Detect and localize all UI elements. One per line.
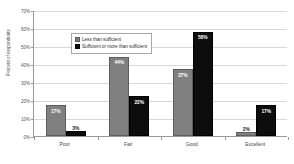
legend-swatch-icon bbox=[75, 37, 80, 42]
bar[interactable]: 37% bbox=[173, 69, 193, 136]
y-axis-tick-label: 70% bbox=[21, 9, 30, 14]
bar-group: 37%58% bbox=[173, 11, 213, 136]
bar-value-label: 2% bbox=[243, 127, 250, 132]
bar[interactable]: 44% bbox=[109, 57, 129, 136]
bar-group: 17%3% bbox=[46, 11, 86, 136]
y-axis-tick-label: 10% bbox=[21, 117, 30, 122]
bar-value-label: 17% bbox=[51, 109, 61, 114]
legend-item-less-than-sufficient: Less than sufficient bbox=[75, 36, 147, 43]
plot-area: 17%3%44%22%37%58%2%17% Less than suffici… bbox=[33, 11, 287, 137]
y-axis-tick-mark bbox=[31, 83, 34, 84]
bar-value-label: 17% bbox=[262, 109, 272, 114]
y-axis-tick-label: 20% bbox=[21, 99, 30, 104]
y-axis-title: Percent of respondents bbox=[6, 17, 11, 89]
y-axis-tick-label: 0% bbox=[24, 135, 30, 140]
bar-value-label: 58% bbox=[198, 35, 208, 40]
chart-screenshot: Percent of respondents 0%10%20%30%40%50%… bbox=[0, 0, 294, 164]
legend-item-sufficient-or-more: Sufficient or more than sufficient bbox=[75, 43, 147, 50]
legend-label: Sufficient or more than sufficient bbox=[82, 44, 147, 49]
y-axis-tick-mark bbox=[31, 29, 34, 30]
bar[interactable]: 3% bbox=[66, 131, 86, 136]
x-axis-tick-label: Fair bbox=[124, 141, 132, 147]
x-axis-tick-mark bbox=[34, 137, 35, 140]
x-axis-tick-mark bbox=[98, 137, 99, 140]
bar[interactable]: 22% bbox=[129, 96, 149, 136]
bar[interactable]: 2% bbox=[236, 132, 256, 136]
y-axis-tick-label: 50% bbox=[21, 45, 30, 50]
y-axis-tick-mark bbox=[31, 119, 34, 120]
legend-swatch-icon bbox=[75, 44, 80, 49]
y-axis-tick-mark bbox=[31, 11, 34, 12]
chart-legend: Less than sufficient Sufficient or more … bbox=[71, 33, 152, 54]
x-axis-tick-labels: PoorFairGoodExcellent bbox=[33, 141, 287, 153]
x-axis-tick-label: Poor bbox=[60, 141, 70, 147]
x-axis-tick-mark bbox=[288, 137, 289, 140]
bar-group: 44%22% bbox=[109, 11, 149, 136]
bar[interactable]: 17% bbox=[256, 105, 276, 136]
bar-value-label: 37% bbox=[178, 73, 188, 78]
bar[interactable]: 17% bbox=[46, 105, 66, 136]
y-axis-tick-mark bbox=[31, 65, 34, 66]
legend-label: Less than sufficient bbox=[82, 37, 121, 42]
y-axis-tick-mark bbox=[31, 101, 34, 102]
x-axis-tick-label: Excellent bbox=[245, 141, 265, 147]
bar-group: 2%17% bbox=[236, 11, 276, 136]
x-axis-tick-label: Good bbox=[186, 141, 198, 147]
bar-value-label: 44% bbox=[115, 60, 125, 65]
x-axis-tick-mark bbox=[225, 137, 226, 140]
bar-value-label: 22% bbox=[135, 100, 145, 105]
y-axis-tick-mark bbox=[31, 47, 34, 48]
bar-value-label: 3% bbox=[72, 126, 79, 131]
y-axis-tick-label: 60% bbox=[21, 27, 30, 32]
x-axis-tick-mark bbox=[161, 137, 162, 140]
y-axis-tick-label: 40% bbox=[21, 63, 30, 68]
y-axis-tick-labels: 0%10%20%30%40%50%60%70% bbox=[12, 11, 30, 137]
bar[interactable]: 58% bbox=[193, 32, 213, 136]
y-axis-tick-label: 30% bbox=[21, 81, 30, 86]
